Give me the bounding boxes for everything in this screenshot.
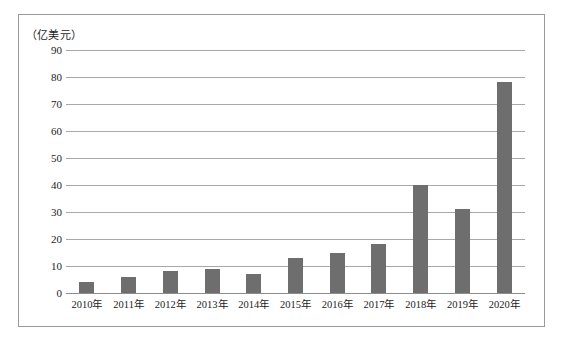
bar-2015年	[288, 258, 303, 293]
y-tick-label-0: 0	[26, 287, 62, 299]
x-tick-label-2017年: 2017年	[356, 296, 402, 311]
x-tick-label-2015年: 2015年	[273, 296, 319, 311]
y-tick-label-50: 50	[26, 152, 62, 164]
bar-2012年	[163, 271, 178, 293]
y-tick-label-30: 30	[26, 206, 62, 218]
y-tick-label-70: 70	[26, 98, 62, 110]
x-tick-label-2013年: 2013年	[189, 296, 235, 311]
y-tick-label-40: 40	[26, 179, 62, 191]
bar-2011年	[121, 277, 136, 293]
bar-2017年	[371, 244, 386, 293]
bar-2013年	[205, 269, 220, 293]
bar-2020年	[497, 82, 512, 293]
bar-2010年	[79, 282, 94, 293]
x-tick-label-2019年: 2019年	[439, 296, 485, 311]
x-tick-label-2012年: 2012年	[147, 296, 193, 311]
y-axis-tick-labels: 0102030405060708090	[22, 50, 62, 293]
bar-2018年	[413, 185, 428, 293]
bar-2014年	[246, 274, 261, 293]
x-tick-label-2018年: 2018年	[398, 296, 444, 311]
bars-layer	[66, 50, 525, 293]
y-tick-label-10: 10	[26, 260, 62, 272]
x-tick-label-2014年: 2014年	[231, 296, 277, 311]
x-tick-label-2016年: 2016年	[314, 296, 360, 311]
bar-2019年	[455, 209, 470, 293]
x-axis-tick-labels: 2010年2011年2012年2013年2014年2015年2016年2017年…	[66, 296, 525, 314]
y-tick-label-90: 90	[26, 44, 62, 56]
y-tick-label-60: 60	[26, 125, 62, 137]
x-tick-label-2020年: 2020年	[481, 296, 527, 311]
x-tick-label-2011年: 2011年	[106, 296, 152, 311]
chart-screenshot: （亿美元） 0102030405060708090 2010年2011年2012…	[0, 0, 563, 341]
y-tick-label-80: 80	[26, 71, 62, 83]
plot-area	[66, 50, 525, 293]
x-tick-label-2010年: 2010年	[64, 296, 110, 311]
y-axis-unit-caption: （亿美元）	[26, 26, 82, 42]
y-tick-label-20: 20	[26, 233, 62, 245]
bar-2016年	[330, 253, 345, 294]
